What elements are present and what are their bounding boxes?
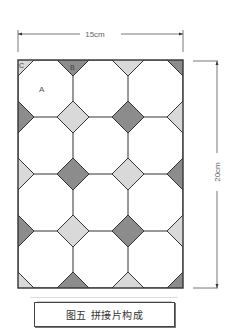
tiling-diagram: 15cm 20cm A B C [0, 0, 236, 333]
caption-rule [30, 297, 178, 298]
width-label: 15cm [85, 30, 105, 39]
label-C: C [19, 62, 24, 69]
label-A: A [39, 85, 45, 94]
arrow-left-icon [18, 33, 22, 36]
label-B: B [70, 64, 75, 71]
tile-grid [2, 44, 199, 304]
arrow-down-icon [216, 284, 219, 288]
caption-box: 图五 拼接片构成 [34, 302, 175, 327]
arrow-up-icon [216, 61, 219, 65]
height-label: 20cm [213, 162, 222, 182]
arrow-right-icon [179, 33, 183, 36]
caption-text: 图五 拼接片构成 [66, 307, 143, 322]
